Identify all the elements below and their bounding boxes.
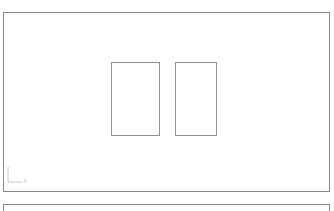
- rectangle-shape-1[interactable]: [111, 62, 160, 136]
- command-line[interactable]: [3, 204, 330, 211]
- ucs-y-label: Y: [6, 166, 10, 172]
- rectangle-shape-2[interactable]: [175, 62, 217, 136]
- ucs-icon: Y X: [6, 168, 30, 184]
- ucs-x-label: X: [23, 178, 27, 184]
- drawing-viewport[interactable]: [3, 12, 330, 192]
